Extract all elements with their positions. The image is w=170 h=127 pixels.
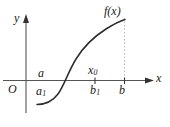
point-label-b1: b1 xyxy=(90,84,100,97)
point-label-a: a xyxy=(38,67,44,79)
y-axis-arrowhead xyxy=(23,14,29,23)
point-label-x0-sub: 0 xyxy=(94,68,98,77)
function-label: f(x) xyxy=(104,5,121,17)
y-axis-label: y xyxy=(14,12,19,24)
x-axis-arrowhead xyxy=(145,78,154,84)
point-label-x0: x0 xyxy=(88,64,97,77)
graph-canvas xyxy=(0,0,170,127)
origin-label: O xyxy=(8,83,17,95)
x-axis-label: x xyxy=(156,72,161,84)
point-label-b1-sub: 1 xyxy=(96,88,100,97)
point-label-b: b xyxy=(119,84,125,96)
point-label-x0-base: x xyxy=(88,63,93,77)
function-curve xyxy=(37,20,125,105)
point-label-a1-sub: 1 xyxy=(42,89,46,98)
function-graph-figure: y x O f(x) a a1 x0 b1 b xyxy=(0,0,170,127)
point-label-a1: a1 xyxy=(36,85,46,98)
